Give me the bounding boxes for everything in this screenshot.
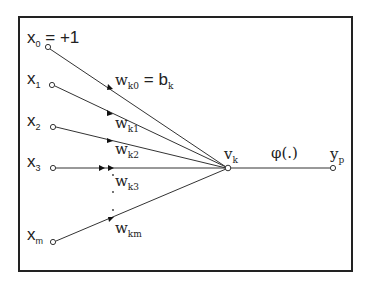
arrow-icon <box>99 165 105 171</box>
input-node-xm <box>50 239 55 244</box>
ellipsis-dot <box>112 191 114 193</box>
weight-label-wk1: wk1 <box>115 116 139 134</box>
output-node-yp <box>330 165 335 170</box>
input-node-x2 <box>50 124 55 129</box>
ellipsis-dot <box>112 174 114 176</box>
weight-label-wk2: wk2 <box>115 142 139 160</box>
edge-x1 <box>55 86 226 167</box>
input-label-x0: x0 = +1 <box>27 29 79 49</box>
input-label-xm: xm <box>27 226 43 246</box>
weight-label-wk0: wk0 = bk <box>115 71 173 91</box>
summing-node-label: vk <box>224 147 238 165</box>
weight-label-wkm: wkm <box>115 221 142 239</box>
input-node-x1 <box>49 82 54 87</box>
ellipsis-dot <box>112 209 114 211</box>
weight-label-wk3: wk3 <box>115 174 139 192</box>
activation-label: φ(.) <box>271 146 298 161</box>
output-label: yp <box>330 147 344 165</box>
input-label-x1: x1 <box>27 70 41 90</box>
summing-node-vk <box>225 165 231 171</box>
arrow-icon <box>108 217 114 222</box>
input-node-x3 <box>50 165 55 170</box>
input-label-x3: x3 <box>27 153 41 173</box>
edge-x2 <box>56 127 226 168</box>
arrow-icon <box>108 165 114 171</box>
arrow-icon <box>107 84 113 90</box>
input-label-x2: x2 <box>27 112 41 132</box>
